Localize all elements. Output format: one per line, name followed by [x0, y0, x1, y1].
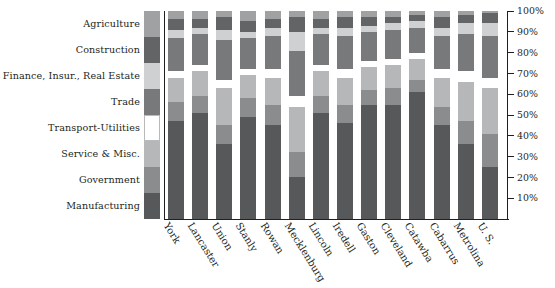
bar-segment [361, 67, 377, 90]
legend-swatch [144, 115, 160, 141]
bar-segment [289, 177, 305, 219]
y-tick: 70% [508, 67, 538, 79]
bar-segment [265, 36, 281, 69]
legend-item-label: Agriculture [83, 19, 144, 29]
bar-york [168, 11, 184, 219]
bar-segment [289, 51, 305, 97]
bar-segment [289, 32, 305, 51]
bar-segment [216, 17, 232, 29]
bar-segment [313, 71, 329, 96]
legend-item-agriculture: Agriculture [0, 11, 160, 37]
bar-segment [192, 96, 208, 113]
bar-stanly [240, 11, 256, 219]
y-tick: 50% [508, 109, 538, 121]
bar-segment [289, 152, 305, 177]
bar-segment [482, 134, 498, 167]
y-tick-mark [508, 52, 514, 53]
bar-iredell [337, 11, 353, 219]
legend-item-label: Transport-Utilities [48, 123, 144, 133]
bar-segment [192, 11, 208, 19]
bar-segment [240, 75, 256, 98]
bar-segment [434, 69, 450, 77]
bar-segment [458, 23, 474, 33]
bar-segment [216, 125, 232, 144]
legend-item-label: Government [79, 175, 144, 185]
bar-segment [192, 71, 208, 96]
y-tick: 100% [508, 5, 544, 17]
legend-item-label: Finance, Insur., Real Estate [3, 71, 144, 81]
bar-segment [361, 17, 377, 25]
bar-lancaster [192, 11, 208, 219]
bar-segment [168, 121, 184, 219]
legend-swatch [144, 37, 160, 63]
bar-segment [385, 88, 401, 105]
bar-u-s [482, 11, 498, 219]
bar-segment [458, 71, 474, 81]
legend-item-government: Government [0, 167, 160, 193]
bar-segment [265, 78, 281, 105]
bar-segment [240, 98, 256, 117]
bar-segment [168, 102, 184, 121]
y-tick: 10% [508, 192, 538, 204]
bar-segment [216, 80, 232, 88]
legend-item-label: Trade [111, 97, 144, 107]
y-tick-label: 100% [517, 6, 544, 15]
bar-segment [409, 92, 425, 219]
y-tick-mark [508, 31, 514, 32]
legend-item-label: Service & Misc. [61, 149, 144, 159]
bar-segment [192, 19, 208, 27]
axis-bottom-line [164, 219, 509, 220]
legend-swatch [144, 11, 160, 37]
y-tick-label: 60% [517, 89, 538, 98]
bar-segment [409, 80, 425, 92]
bar-catawba [409, 11, 425, 219]
bar-lincoln [313, 11, 329, 219]
legend-swatch [144, 167, 160, 193]
y-tick: 80% [508, 47, 538, 59]
bar-segment [265, 28, 281, 36]
y-tick-mark [508, 198, 514, 199]
bar-segment [458, 144, 474, 219]
legend-item-service-misc: Service & Misc. [0, 141, 160, 167]
legend-swatch [144, 141, 160, 167]
bar-segment [168, 19, 184, 29]
y-axis-ticks: 100%90%80%70%60%50%40%30%20%10% [508, 0, 555, 288]
bar-segment [337, 17, 353, 27]
bar-segment [337, 123, 353, 219]
bar-segment [192, 113, 208, 219]
legend-item-manufacturing: Manufacturing [0, 193, 160, 219]
bar-segment [168, 38, 184, 71]
bar-segment [313, 19, 329, 27]
bar-segment [313, 113, 329, 219]
x-axis-label: U. S. [475, 221, 496, 246]
bar-segment [482, 88, 498, 134]
y-tick: 30% [508, 151, 538, 163]
legend-item-finance-insur-real-estate: Finance, Insur., Real Estate [0, 63, 160, 89]
bar-segment [385, 105, 401, 219]
bar-segment [458, 34, 474, 71]
y-tick: 40% [508, 130, 538, 142]
y-tick-mark [508, 135, 514, 136]
bar-segment [482, 78, 498, 88]
bar-segment [361, 105, 377, 219]
bar-segment [482, 36, 498, 78]
bar-metrolina [458, 11, 474, 219]
plot-area [164, 11, 508, 219]
legend-item-transport-utilities: Transport-Utilities [0, 115, 160, 141]
bar-segment [313, 34, 329, 65]
bar-segment [409, 28, 425, 53]
y-tick: 60% [508, 88, 538, 100]
y-tick-mark [508, 156, 514, 157]
x-axis-label: Union [210, 221, 235, 252]
y-tick: 90% [508, 26, 538, 38]
bar-segment [434, 36, 450, 69]
x-axis-label: Rowan [258, 221, 285, 256]
bar-rowan [265, 11, 281, 219]
bar-segment [458, 82, 474, 122]
bar-cabarrus [434, 11, 450, 219]
bar-segment [265, 125, 281, 219]
y-tick-label: 30% [517, 152, 538, 161]
bar-cleveland [385, 11, 401, 219]
legend-swatch [144, 63, 160, 89]
bar-segment [337, 69, 353, 77]
